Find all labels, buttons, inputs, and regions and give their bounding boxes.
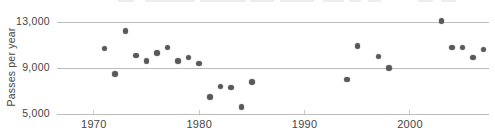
- x-tick-mark-1990: [304, 110, 305, 114]
- data-point-1974: [133, 53, 139, 59]
- cropped-text-remnant: [368, 0, 381, 2]
- data-point-1978: [175, 58, 181, 64]
- data-point-1976: [154, 50, 160, 56]
- data-point-2005: [460, 45, 466, 51]
- data-point-1985: [249, 79, 255, 85]
- data-point-1972: [112, 71, 118, 77]
- cropped-text-remnant: [418, 0, 433, 2]
- data-point-2003: [439, 18, 445, 24]
- x-tick-label-1990: 1990: [285, 118, 325, 130]
- y-tick-label-5000: 5,000: [4, 107, 50, 119]
- y-gridline-5000: [57, 114, 489, 115]
- cropped-text-remnant: [200, 0, 246, 2]
- data-point-1995: [355, 43, 361, 49]
- data-point-1977: [165, 45, 171, 51]
- data-point-1994: [344, 77, 350, 83]
- y-gridline-9000: [57, 68, 489, 69]
- data-point-2007: [481, 47, 487, 53]
- cropped-text-remnant: [145, 0, 195, 2]
- cropped-text-remnant: [280, 0, 314, 2]
- y-tick-label-13000: 13,000: [4, 15, 50, 27]
- passes-per-year-scatter-chart: Passes per year 13,0009,0005,00019701980…: [0, 0, 495, 135]
- x-tick-mark-2000: [409, 110, 410, 114]
- data-point-1983: [228, 85, 234, 91]
- data-point-1997: [376, 54, 382, 60]
- data-point-1982: [218, 84, 224, 90]
- cropped-text-remnant: [250, 0, 274, 2]
- data-point-1973: [123, 28, 129, 34]
- data-point-1975: [144, 58, 150, 64]
- data-point-2006: [470, 55, 476, 61]
- data-point-2004: [449, 45, 455, 51]
- data-point-1979: [186, 55, 192, 61]
- cropped-text-remnant: [349, 0, 361, 2]
- data-point-1984: [239, 104, 245, 110]
- cropped-text-remnant: [441, 0, 456, 2]
- y-gridline-13000: [57, 22, 489, 23]
- cropped-text-remnant: [118, 0, 134, 2]
- x-tick-label-2000: 2000: [390, 118, 430, 130]
- y-tick-label-9000: 9,000: [4, 61, 50, 73]
- x-tick-mark-1980: [199, 110, 200, 114]
- cropped-text-remnant: [323, 0, 344, 2]
- data-point-1980: [196, 61, 202, 67]
- x-tick-label-1970: 1970: [74, 118, 114, 130]
- x-tick-label-1980: 1980: [179, 118, 219, 130]
- data-point-1998: [386, 65, 392, 71]
- data-point-1981: [207, 94, 213, 100]
- x-tick-mark-1970: [93, 110, 94, 114]
- data-point-1971: [102, 46, 108, 52]
